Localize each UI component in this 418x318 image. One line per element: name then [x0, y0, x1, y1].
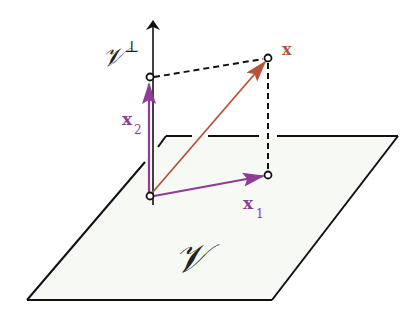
label-x2: x: [122, 109, 133, 129]
label-x1-subscript: 1: [256, 207, 264, 221]
origin-point: [147, 193, 154, 200]
diagram-svg: 𝒱 ⊥ x x 2 x 1 𝒱: [0, 0, 418, 318]
axis-label-perp: ⊥: [124, 37, 139, 56]
x1-tip-point: [265, 172, 272, 179]
x2-tip-point: [147, 74, 154, 81]
label-x1: x: [243, 193, 254, 213]
label-x: x: [282, 40, 292, 59]
plane-v: [27, 136, 398, 300]
dashed-line-x2-to-x: [154, 59, 263, 77]
label-x2-subscript: 2: [134, 123, 142, 137]
diagram-canvas: 𝒱 ⊥ x x 2 x 1 𝒱: [0, 0, 418, 318]
x-tip-point: [265, 55, 272, 62]
